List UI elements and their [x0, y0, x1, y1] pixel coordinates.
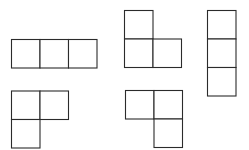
tromino-l-down-right [126, 91, 183, 148]
square-cell [125, 11, 154, 40]
square-cell [69, 40, 98, 69]
square-cell [40, 40, 69, 69]
tromino-l-up [125, 11, 182, 68]
tromino-l-down-left [12, 91, 69, 148]
square-cell [125, 39, 154, 68]
square-cell [154, 119, 183, 148]
square-cell [153, 39, 182, 68]
tromino-vertical-i [208, 11, 237, 97]
square-cell [208, 39, 237, 68]
square-cell [208, 68, 237, 97]
square-cell [12, 40, 41, 69]
square-cell [208, 11, 237, 40]
square-cell [154, 91, 183, 120]
tromino-horizontal-i [12, 40, 98, 69]
square-cell [12, 91, 41, 120]
square-cell [12, 120, 41, 149]
square-cell [40, 91, 69, 120]
tromino-figure [0, 0, 249, 150]
square-cell [126, 91, 155, 120]
